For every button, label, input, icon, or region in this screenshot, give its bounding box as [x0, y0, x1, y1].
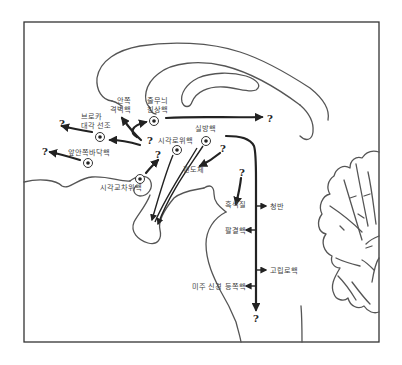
- label-vagus-dorsal: 미주 신경 등쪽핵: [192, 282, 246, 291]
- unknown-suprachiasmatic-target: ?: [155, 149, 161, 160]
- label-medial-septal-1: 안쪽: [117, 96, 131, 105]
- label-bed-nucleus-1: 줄무늬: [147, 96, 168, 105]
- label-suprachiasmatic: 시각교차위핵: [100, 183, 142, 192]
- arrow-paraventricular-down: [158, 146, 203, 224]
- cerebellum: [319, 151, 379, 313]
- arrow-supraoptic-down: [152, 155, 173, 220]
- arrow-to-medial-septal: [122, 118, 141, 140]
- label-substantia-nigra: 흑색질: [225, 200, 246, 209]
- unknown-nigra-source: ?: [239, 167, 245, 178]
- label-paraventricular: 실방핵: [195, 124, 216, 133]
- label-bed-nucleus-2: 침상핵: [147, 105, 168, 114]
- brain-outline: [24, 43, 328, 342]
- marker-paraventricular: [202, 137, 211, 146]
- marker-bed-nucleus: [150, 117, 159, 126]
- brain-diagram: ? ? ? ? ? ? ? ? 안쪽 격벽핵 줄무늬 침상핵 브로카 대각 선조…: [0, 0, 402, 365]
- unknown-descending-target: ?: [253, 313, 259, 324]
- label-broca-1: 브로카: [81, 112, 102, 121]
- unknown-bed-target: ?: [267, 113, 273, 124]
- label-locus-coeruleus: 청반: [270, 202, 284, 211]
- label-broca-2: 대각 선조: [81, 121, 111, 130]
- arrow-bed-to-unknown: [166, 117, 262, 118]
- arrow-to-broca: [110, 140, 140, 145]
- unknown-hub: ?: [147, 135, 153, 146]
- label-anterior-olfactory: 앞안쪽바닥핵: [68, 148, 110, 157]
- arrow-suprachiasmatic-to-unknown: [146, 160, 158, 173]
- unknown-amygdala-source: ?: [220, 143, 226, 154]
- label-amygdala: 편도체: [183, 165, 204, 174]
- label-solitary: 고립로핵: [270, 266, 298, 275]
- unknown-olfactory-target: ?: [42, 146, 48, 157]
- marker-broca: [96, 133, 105, 142]
- marker-anterior-olfactory: [84, 159, 93, 168]
- marker-supraoptic: [173, 146, 182, 155]
- label-supraoptic: 시각로위핵: [158, 136, 193, 145]
- label-parabrachial: 팔결핵: [225, 226, 246, 235]
- unknown-broca-target: ?: [59, 118, 65, 129]
- label-medial-septal-2: 격벽핵: [110, 105, 131, 114]
